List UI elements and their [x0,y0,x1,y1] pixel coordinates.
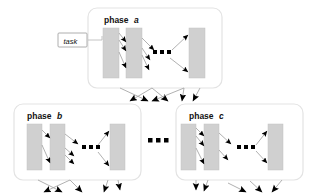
arrows-below-phase-a [120,88,200,101]
phase-b-column-1 [27,124,42,170]
phase-a-label: phase a [104,15,139,25]
phase-c-label-prefix: phase [189,111,214,121]
phase-b-group: phase b [14,104,141,180]
phase-a-column-2 [126,28,142,78]
phase-a-group: phase a [88,8,222,88]
phase-c-label: phase c [189,111,224,121]
phase-b-label: phase b [27,111,62,121]
phase-b-column-2 [50,124,65,170]
diagram-canvas: phase a [0,0,311,196]
phase-b-label-letter: b [57,111,62,121]
phase-c-group: phase c [176,104,303,180]
between-phases-ellipsis [148,138,169,143]
phase-b-column-last [110,124,125,170]
phase-c-column-last [268,124,283,170]
phase-c-column-1 [181,124,196,170]
task-leader-line [88,36,102,40]
phase-a-label-letter: a [134,15,139,25]
phase-a-column-last [189,28,205,78]
phase-a-column-1 [103,28,119,78]
phase-c-inner-ellipsis [237,145,255,149]
phase-b-inner-ellipsis [82,145,100,149]
phase-b-label-prefix: phase [27,111,52,121]
task-callout: task [58,33,102,47]
task-label: task [64,37,79,46]
phase-a-label-prefix: phase [104,15,129,25]
phase-a-inner-ellipsis [153,50,171,54]
pipeline-diagram: phase a [0,0,311,196]
arrows-below-phase-b [38,180,120,192]
phase-c-label-letter: c [219,111,224,121]
phase-c-column-2 [204,124,219,170]
arrows-below-phase-c [196,180,282,192]
